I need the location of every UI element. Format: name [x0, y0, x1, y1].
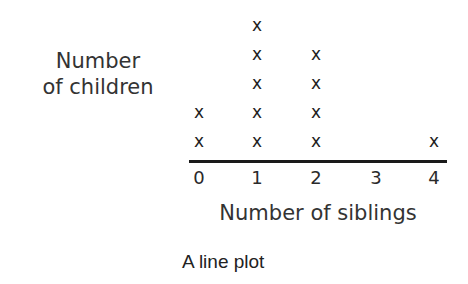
x-mark: x — [304, 103, 328, 121]
x-mark: x — [422, 132, 446, 150]
x-axis-line — [189, 160, 447, 163]
y-axis-label: Number of children — [0, 48, 196, 100]
x-mark: x — [187, 103, 211, 121]
x-tick-1: 1 — [245, 168, 269, 188]
x-tick-3: 3 — [364, 168, 388, 188]
x-mark: x — [245, 132, 269, 150]
caption: A line plot — [182, 250, 264, 274]
x-mark: x — [304, 74, 328, 92]
y-axis-label-line-2: of children — [0, 74, 196, 100]
x-mark: x — [187, 132, 211, 150]
x-tick-0: 0 — [187, 168, 211, 188]
x-tick-2: 2 — [304, 168, 328, 188]
x-mark: x — [304, 132, 328, 150]
x-mark: x — [245, 74, 269, 92]
y-axis-label-line-1: Number — [0, 48, 196, 74]
x-tick-4: 4 — [422, 168, 446, 188]
x-mark: x — [245, 16, 269, 34]
x-mark: x — [245, 103, 269, 121]
x-mark: x — [245, 45, 269, 63]
x-mark: x — [304, 45, 328, 63]
x-axis-label: Number of siblings — [189, 199, 447, 227]
